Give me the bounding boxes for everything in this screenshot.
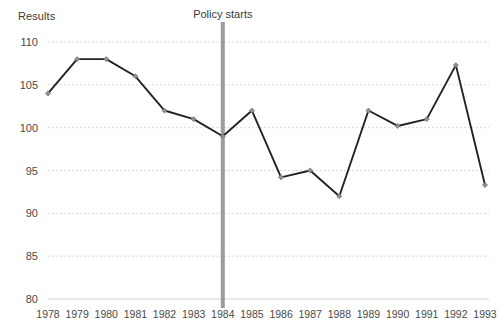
- plot-area: [0, 0, 499, 332]
- data-point-marker: [482, 182, 487, 187]
- line-chart: Results Policy starts 80859095100105110 …: [0, 0, 499, 332]
